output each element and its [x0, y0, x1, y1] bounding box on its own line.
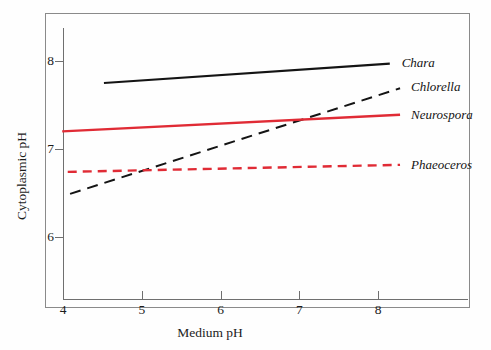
data-series-layer: [0, 0, 491, 350]
series-line-neurospora: [62, 115, 400, 132]
figure-canvas: 678 45678 CharaChlorellaNeurosporaPhaeoc…: [0, 0, 491, 350]
y-axis-title: Cytoplasmic pH: [14, 106, 30, 246]
series-line-chara: [104, 64, 390, 83]
series-label-chlorella: Chlorella: [411, 80, 460, 93]
series-line-phaeoceros: [68, 165, 400, 172]
series-line-chlorella: [70, 88, 400, 194]
x-axis-title: Medium pH: [0, 325, 420, 341]
series-label-neurospora: Neurospora: [411, 108, 473, 121]
series-label-phaeoceros: Phaeoceros: [411, 158, 472, 171]
series-label-chara: Chara: [402, 56, 435, 69]
